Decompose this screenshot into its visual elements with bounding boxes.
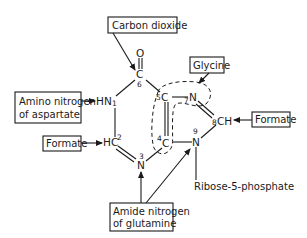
source-carbon-dioxide: Carbon dioxide xyxy=(108,17,187,33)
atom-c6-number: 6 xyxy=(137,80,142,89)
atom-n9: N xyxy=(192,136,200,148)
atom-n1-number: 1 xyxy=(112,99,117,108)
source-formate-right: Formate xyxy=(252,112,296,127)
purine-origin-diagram: O C 6 HN 1 HC 2 N 3 4 C 5 C 7 N 8 CH 9 N… xyxy=(0,0,307,238)
formate-right-label: Formate xyxy=(255,114,296,125)
amide-glutamine-line2: of glutamine xyxy=(113,218,176,229)
atom-o: O xyxy=(136,47,144,59)
source-formate-left: Formate xyxy=(43,136,87,151)
source-amide-glutamine: Amide nitrogen of glutamine xyxy=(110,203,190,231)
amino-aspartate-line2: of aspartate xyxy=(19,109,80,120)
source-glycine: Glycine xyxy=(190,57,230,73)
carbon-dioxide-label: Carbon dioxide xyxy=(112,20,187,31)
atom-c4: C xyxy=(162,137,169,149)
atom-c2-number: 2 xyxy=(117,133,122,142)
atom-c8: CH xyxy=(217,115,232,127)
atom-c6: C xyxy=(136,68,143,80)
source-amino-aspartate: Amino nitrogen of aspartate xyxy=(15,92,96,123)
glycine-label: Glycine xyxy=(193,60,230,71)
atom-c5: C xyxy=(161,91,168,103)
ribose-5-phosphate-label: Ribose-5-phosphate xyxy=(194,181,294,192)
ring-bonds xyxy=(115,58,216,180)
atom-n3-number: 3 xyxy=(139,152,144,161)
atom-n9-number: 9 xyxy=(193,127,198,136)
arrow-carbon-dioxide xyxy=(113,33,135,70)
arrow-glycine xyxy=(199,73,209,83)
atom-n1: HN xyxy=(96,95,112,107)
arrow-amide-to-n9 xyxy=(146,149,190,203)
atom-c2: HC xyxy=(103,136,118,148)
atom-n7: N xyxy=(189,91,197,103)
amide-glutamine-line1: Amide nitrogen xyxy=(113,206,190,217)
